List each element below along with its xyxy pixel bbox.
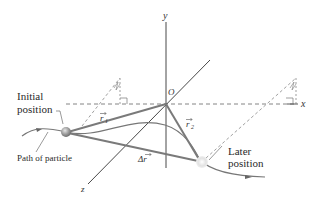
vector-delta-r [68,133,198,161]
right-angle-initial [120,98,127,104]
r2-label: r 2 [186,118,194,130]
particle-initial [61,127,71,137]
svg-text:1: 1 [105,118,108,124]
x-axis-label: x [300,98,306,109]
origin-label: O [168,87,175,97]
vector-r2 [166,104,200,161]
svg-text:2: 2 [191,124,194,130]
later-label-2: position [228,157,264,169]
delta-r-label: Δr [137,153,151,164]
later-label-1: Later [228,145,252,157]
z-axis-label: z [80,184,85,194]
leader-path [36,132,48,152]
tick-later [290,82,296,90]
leader-initial [56,111,63,124]
particle-later [196,156,208,168]
tick-initial [114,82,120,90]
initial-label-1: Initial [17,90,43,102]
displacement-diagram: y x z O Initial position Later position … [0,0,320,206]
right-angle-later [286,98,293,104]
leader-later [209,146,222,160]
svg-text:r: r [186,119,190,129]
initial-label-2: position [17,103,53,115]
y-axis-label: y [162,10,168,21]
svg-text:r: r [100,113,104,123]
svg-text:Δr: Δr [137,154,147,164]
diagram-canvas: y x z O Initial position Later position … [0,0,320,206]
path-label: Path of particle [17,153,72,163]
